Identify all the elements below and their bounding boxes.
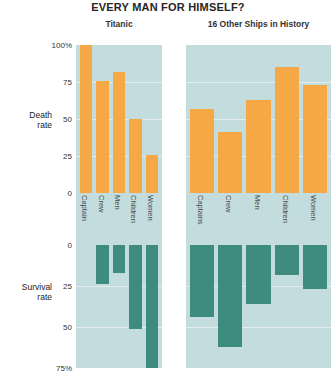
- bar-death-captain[interactable]: [80, 45, 92, 193]
- category-label-captain: Captain: [80, 195, 89, 221]
- bar-death-captains[interactable]: [190, 109, 214, 193]
- panel-title-other-ships: 16 Other Ships in History: [186, 19, 331, 29]
- panel-title-titanic: Titanic: [76, 19, 162, 29]
- bar-death-men[interactable]: [113, 72, 125, 193]
- bar-survival-men[interactable]: [246, 245, 270, 304]
- gridline: [186, 327, 331, 328]
- bar-survival-men[interactable]: [113, 245, 125, 273]
- category-label-men: Men: [113, 195, 122, 210]
- bar-death-men[interactable]: [246, 100, 270, 193]
- bar-survival-crew[interactable]: [96, 245, 108, 284]
- tick-death-25: 25: [44, 152, 72, 161]
- category-label-children: Children: [281, 195, 290, 223]
- category-label-crew: Crew: [97, 195, 106, 213]
- gridline: [186, 82, 331, 83]
- bar-survival-children[interactable]: [129, 245, 141, 329]
- bar-death-children[interactable]: [275, 67, 299, 193]
- plot-area-titanic-survival: [76, 245, 162, 368]
- category-label-women: Women: [146, 195, 155, 221]
- bar-death-women[interactable]: [146, 155, 158, 193]
- bar-survival-crew[interactable]: [218, 245, 242, 347]
- plot-area-other-death: [186, 45, 331, 193]
- tick-death-100: 100%: [44, 41, 72, 50]
- bar-death-crew[interactable]: [96, 81, 108, 193]
- bar-survival-captains[interactable]: [190, 245, 214, 317]
- bar-death-crew[interactable]: [218, 132, 242, 193]
- tick-death-0: 0: [44, 189, 72, 198]
- tick-survival-25: 25: [44, 282, 72, 291]
- category-strip-other: CaptainsCrewMenChildrenWomen: [186, 193, 331, 245]
- bar-death-women[interactable]: [303, 85, 327, 193]
- bar-survival-women[interactable]: [303, 245, 327, 289]
- bar-survival-women[interactable]: [146, 245, 158, 368]
- bar-death-children[interactable]: [129, 119, 141, 193]
- bar-survival-children[interactable]: [275, 245, 299, 275]
- tick-death-50: 50: [44, 115, 72, 124]
- page-title: EVERY MAN FOR HIMSELF?: [0, 1, 336, 13]
- category-label-men: Men: [253, 195, 262, 210]
- category-label-women: Women: [309, 195, 318, 221]
- tick-survival-50: 50: [44, 323, 72, 332]
- plot-area-other-survival: [186, 245, 331, 368]
- category-label-children: Children: [129, 195, 138, 223]
- plot-area-titanic-death: [76, 45, 162, 193]
- tick-survival-75: 75%: [44, 364, 72, 373]
- tick-survival-0: 0: [44, 241, 72, 250]
- category-strip-titanic: CaptainCrewMenChildrenWomen: [76, 193, 162, 245]
- category-label-crew: Crew: [224, 195, 233, 213]
- tick-death-75: 75: [44, 78, 72, 87]
- category-label-captains: Captains: [196, 195, 205, 225]
